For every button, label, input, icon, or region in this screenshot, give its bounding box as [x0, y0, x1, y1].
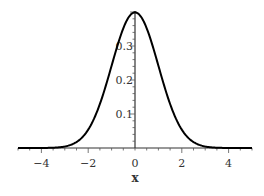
chart-plot: −4−20240.10.20.3 x: [0, 0, 264, 196]
x-tick-label: 0: [132, 157, 139, 170]
x-tick-label: 4: [225, 157, 232, 170]
y-tick-label: 0.2: [116, 74, 134, 87]
x-tick-label: −2: [80, 157, 96, 170]
x-axis-title: x: [131, 171, 139, 185]
x-tick-label: −4: [33, 157, 49, 170]
y-tick-label: 0.1: [116, 108, 134, 121]
x-tick-label: 2: [178, 157, 185, 170]
